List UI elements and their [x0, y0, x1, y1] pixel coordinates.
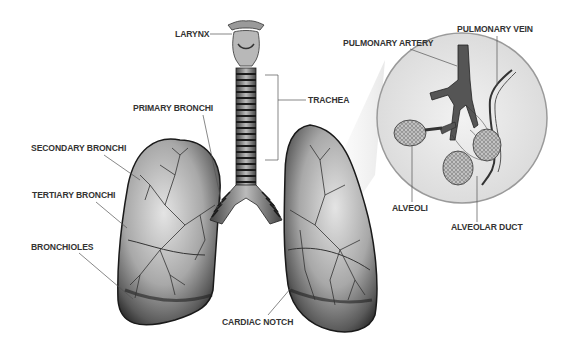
label-alveoli: ALVEOLI	[392, 203, 428, 213]
label-cardiac-notch: CARDIAC NOTCH	[222, 317, 293, 327]
larynx	[228, 21, 264, 66]
alveoli-cluster	[473, 129, 501, 161]
label-secondary-bronchi: SECONDARY BRONCHI	[31, 143, 126, 153]
label-tertiary-bronchi: TERTIARY BRONCHI	[32, 190, 115, 200]
label-larynx: LARYNX	[175, 29, 209, 39]
label-primary-bronchi: PRIMARY BRONCHI	[133, 103, 213, 113]
label-alveolar-duct: ALVEOLAR DUCT	[451, 222, 523, 232]
label-pulmonary-vein: PULMONARY VEIN	[457, 24, 533, 34]
label-trachea: TRACHEA	[308, 95, 349, 105]
lungs-illustration	[0, 0, 564, 350]
tertiary-bronchi-leader-line	[96, 202, 127, 228]
alveoli-cluster	[394, 120, 426, 146]
trachea-bracket	[265, 75, 278, 160]
cardiac-notch-leader-line	[268, 288, 291, 315]
label-bronchioles: BRONCHIOLES	[31, 242, 93, 252]
alveoli-cluster	[443, 151, 473, 185]
left-lung	[118, 139, 220, 325]
label-pulmonary-artery: PULMONARY ARTERY	[343, 38, 433, 48]
alveoli-inset-circle	[377, 33, 547, 203]
lungs-diagram: LARYNX TRACHEA PRIMARY BRONCHI SECONDARY…	[0, 0, 564, 350]
